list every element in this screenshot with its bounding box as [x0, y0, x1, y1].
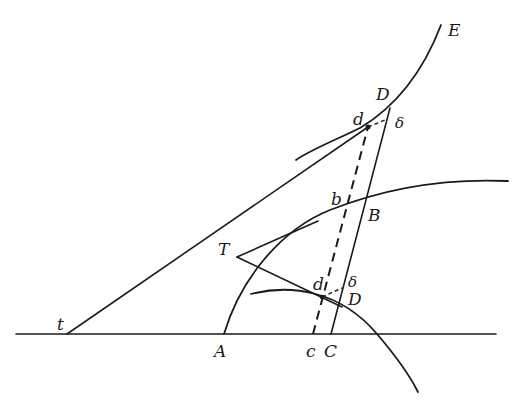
point-upper-d	[366, 125, 371, 130]
label-D-upper: D	[375, 84, 390, 104]
point-lower-d	[320, 295, 324, 299]
label-A: A	[212, 341, 226, 361]
label-d-upper: d	[353, 109, 364, 129]
tangent-line-T-B	[237, 221, 318, 257]
curve-B	[224, 181, 508, 334]
label-delta-upper: δ	[395, 114, 404, 132]
curve-E	[296, 25, 441, 160]
label-T: T	[218, 239, 231, 259]
geometry-diagram: E D d δ b B T d δ D t A c C	[0, 0, 520, 408]
label-b: b	[331, 189, 342, 209]
label-C: C	[324, 341, 337, 361]
label-D-lower: D	[347, 289, 362, 309]
label-E: E	[447, 20, 461, 40]
label-d-lower: d	[313, 274, 324, 294]
label-B: B	[367, 205, 381, 225]
line-t-to-upper-d	[67, 127, 368, 334]
label-t: t	[57, 314, 64, 334]
label-c: c	[306, 341, 316, 361]
